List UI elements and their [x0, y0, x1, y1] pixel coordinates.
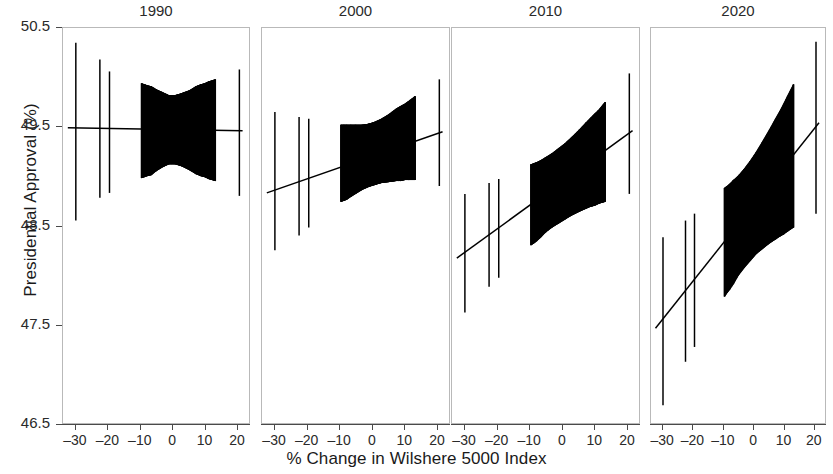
x-axis-tick [172, 424, 173, 430]
facet-plot-area-2000 [262, 28, 449, 423]
x-axis-tick-label: –20 [90, 432, 124, 448]
x-axis-tick [594, 424, 595, 430]
x-axis-tick [464, 424, 465, 430]
x-axis-tick [205, 424, 206, 430]
x-axis-tick-label: –20 [480, 432, 514, 448]
x-axis-tick-label: 20 [220, 432, 254, 448]
x-axis-tick [75, 424, 76, 430]
x-axis-tick [140, 424, 141, 430]
x-axis-tick [274, 424, 275, 430]
x-axis-tick-label: 10 [577, 432, 611, 448]
x-axis-tick-label: 10 [767, 432, 801, 448]
x-axis-tick [437, 424, 438, 430]
facet-plot-area-2010 [452, 28, 639, 423]
facet-panel-1990 [62, 27, 250, 424]
x-axis-tick-label: –10 [322, 432, 356, 448]
x-axis-tick-label: –30 [58, 432, 92, 448]
x-axis-tick [404, 424, 405, 430]
x-axis-tick-label: –30 [645, 432, 679, 448]
y-axis-tick-label: 48.5 [4, 216, 50, 233]
facet-panel-2000 [261, 27, 450, 424]
facet-strip-label-2020: 2020 [650, 2, 826, 22]
y-axis-tick-label: 49.5 [4, 116, 50, 133]
x-axis-line [650, 424, 826, 425]
regression-line [457, 131, 633, 258]
facet-strip-label-2010: 2010 [451, 2, 640, 22]
x-axis-tick-label: –30 [257, 432, 291, 448]
x-axis-tick-label: 0 [736, 432, 770, 448]
facet-panel-2010 [451, 27, 640, 424]
x-axis-tick [372, 424, 373, 430]
x-axis-tick-label: 10 [387, 432, 421, 448]
x-axis-tick-label: 20 [797, 432, 831, 448]
x-axis-tick [307, 424, 308, 430]
x-axis-tick-label: –20 [675, 432, 709, 448]
facet-strip-label-2000: 2000 [261, 2, 450, 22]
x-axis-line [62, 424, 250, 425]
x-axis-tick-label: –20 [290, 432, 324, 448]
x-axis-tick [627, 424, 628, 430]
x-axis-tick [784, 424, 785, 430]
facet-plot-area-2020 [651, 28, 825, 423]
x-axis-tick [753, 424, 754, 430]
figure: Presidential Approval (%) % Change in Wi… [0, 0, 833, 474]
x-axis-tick [692, 424, 693, 430]
facet-plot-area-1990 [63, 28, 249, 423]
x-axis-title: % Change in Wilshere 5000 Index [0, 449, 833, 469]
regression-line [656, 123, 820, 328]
facet-panel-2020 [650, 27, 826, 424]
x-axis-tick [497, 424, 498, 430]
x-axis-tick-label: 0 [355, 432, 389, 448]
y-axis-tick-label: 47.5 [4, 315, 50, 332]
x-axis-tick-label: –10 [706, 432, 740, 448]
x-axis-tick [723, 424, 724, 430]
x-axis-tick [814, 424, 815, 430]
y-axis-tick-label: 50.5 [4, 17, 50, 34]
x-axis-tick [107, 424, 108, 430]
x-axis-tick [237, 424, 238, 430]
x-axis-tick-label: –30 [447, 432, 481, 448]
x-axis-tick-label: 20 [610, 432, 644, 448]
x-axis-line [451, 424, 640, 425]
x-axis-tick [662, 424, 663, 430]
x-axis-tick-label: 0 [155, 432, 189, 448]
x-axis-tick [529, 424, 530, 430]
x-axis-line [261, 424, 450, 425]
x-axis-tick [562, 424, 563, 430]
x-axis-tick-label: –10 [512, 432, 546, 448]
x-axis-tick [339, 424, 340, 430]
x-axis-tick-label: 10 [188, 432, 222, 448]
y-axis-tick-label: 46.5 [4, 414, 50, 431]
x-axis-tick-label: 0 [545, 432, 579, 448]
facet-strip-label-1990: 1990 [62, 2, 250, 22]
x-axis-tick-label: –10 [123, 432, 157, 448]
